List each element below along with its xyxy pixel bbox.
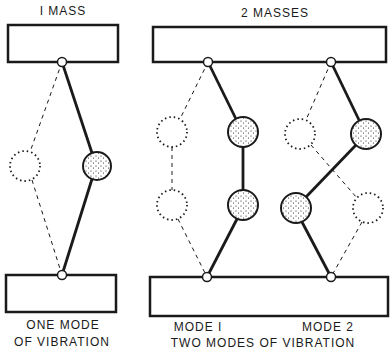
title-one-mass: I MASS (38, 4, 88, 18)
mode1-top-pivot (204, 58, 213, 67)
title-two-masses: 2 MASSES (225, 6, 325, 20)
caption-two-modes: TWO MODES OF VIBRATION (163, 336, 363, 350)
mass-ball (83, 152, 111, 180)
mode1-string (207, 62, 243, 277)
mode1-mass-upper (228, 117, 258, 147)
caption-one-mode-line1: ONE MODE (10, 318, 116, 332)
mode2-mass-lower (281, 193, 311, 223)
bottom-support-block (6, 275, 116, 312)
vibration-diagram (0, 0, 391, 354)
mode1-displaced-dashed (157, 62, 208, 277)
mode1-mass-lower (228, 190, 258, 220)
bottom-support-block-wide (150, 277, 388, 316)
displaced-position-dashed (10, 62, 62, 275)
bottom-pivot (58, 271, 67, 280)
mode2-bottom-pivot (327, 273, 336, 282)
caption-mode2: MODE 2 (296, 320, 360, 334)
mode2-mass-upper (351, 119, 381, 149)
top-support-block (8, 25, 118, 62)
top-support-block-wide (153, 27, 386, 62)
caption-one-mode-line2: OF VIBRATION (6, 335, 118, 349)
mode2-string (302, 62, 359, 277)
mode1-bottom-pivot (203, 273, 212, 282)
one-mass-system (6, 25, 118, 312)
caption-mode1: MODE I (168, 320, 228, 334)
two-mass-system (150, 27, 388, 316)
mode2-top-pivot (327, 58, 336, 67)
top-pivot (58, 58, 67, 67)
